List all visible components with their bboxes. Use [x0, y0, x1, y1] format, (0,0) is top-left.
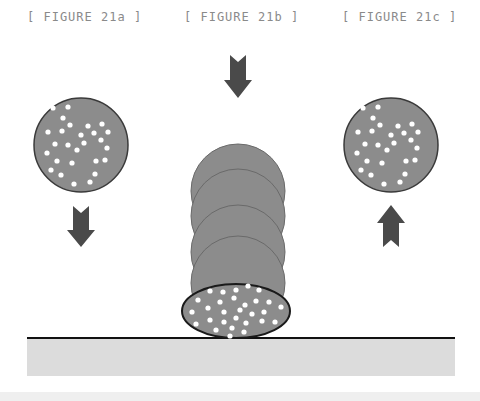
ball-dot [358, 167, 363, 172]
arrow-down-icon [67, 206, 95, 247]
ball-dot [415, 129, 420, 134]
ball-dot [402, 171, 407, 176]
ball-21a [34, 98, 128, 192]
ball-dot [227, 333, 232, 338]
ball-dot [379, 160, 384, 165]
bottom-strip [0, 392, 480, 401]
ball-dot [364, 158, 369, 163]
ball-dot [217, 299, 222, 304]
ball-dot [48, 167, 53, 172]
ball-dot [242, 302, 247, 307]
ball-dot [221, 309, 226, 314]
ball-dot [397, 179, 402, 184]
ball-dot [249, 311, 254, 316]
ball-dot [193, 321, 198, 326]
ball-dot [93, 158, 98, 163]
ball-dot [105, 129, 110, 134]
ball-dot [261, 309, 266, 314]
ball-21b-squashed [182, 283, 290, 338]
ball-dot [368, 172, 373, 177]
ball-dot [44, 150, 49, 155]
ball-dot [362, 141, 367, 146]
ball-dot [370, 115, 375, 120]
ball-dot [375, 104, 380, 109]
ball-dot [408, 137, 413, 142]
ball-dot [71, 181, 76, 186]
ball-dot [87, 179, 92, 184]
ball-dot [409, 121, 414, 126]
ball-dot [45, 129, 50, 134]
ball-dot [81, 140, 86, 145]
ball-dot [91, 130, 96, 135]
ball-dot [272, 319, 277, 324]
ball-dot [388, 132, 393, 137]
ball-dot [104, 145, 109, 150]
ball-dot [92, 171, 97, 176]
ball-dot [253, 298, 258, 303]
ball-dot [233, 287, 238, 292]
ball-dot [205, 305, 210, 310]
ball-dot [395, 123, 400, 128]
ball-dot [278, 304, 283, 309]
ball-dot [99, 121, 104, 126]
ball-dot [375, 142, 380, 147]
ball-dot [221, 319, 226, 324]
ball-dot [54, 158, 59, 163]
ball-dot [231, 295, 236, 300]
ball-dot [189, 309, 194, 314]
ball-dot [391, 140, 396, 145]
ball-dot [213, 327, 218, 332]
ball-dot [412, 157, 417, 162]
ball-dot [241, 329, 246, 334]
ball-dot [50, 105, 55, 110]
ball-dot [78, 132, 83, 137]
ball-dot [74, 147, 79, 152]
ball-dot [381, 181, 386, 186]
ball-dot [233, 315, 238, 320]
ball-dot [243, 320, 248, 325]
ball-dot [60, 115, 65, 120]
ball-dot [259, 318, 264, 323]
ball-dot [384, 147, 389, 152]
ball-dot [52, 141, 57, 146]
ball-dot [360, 105, 365, 110]
ball-dot [67, 122, 72, 127]
arrow-down-icon [224, 55, 252, 98]
ball-dot [69, 160, 74, 165]
ball-dot [403, 158, 408, 163]
ball-dot [102, 157, 107, 162]
ball-dot [59, 128, 64, 133]
ball-dot [85, 123, 90, 128]
ball-dot [256, 287, 261, 292]
bounce-diagram [0, 0, 480, 401]
ball-dot [98, 137, 103, 142]
ball-21c [344, 98, 438, 192]
ball-dot [414, 145, 419, 150]
ball-dot [58, 172, 63, 177]
arrow-up-icon [377, 205, 405, 247]
ball-dot [207, 317, 212, 322]
ball-dot [401, 130, 406, 135]
ball-dot [237, 307, 242, 312]
ball-dot [354, 150, 359, 155]
ground-surface [27, 338, 455, 376]
ball-dot [245, 283, 250, 288]
ball-dot [355, 129, 360, 134]
ball-dot [220, 289, 225, 294]
ball-dot [207, 288, 212, 293]
ball-dot [65, 142, 70, 147]
ball-dot [195, 297, 200, 302]
ball-dot [369, 128, 374, 133]
ball-dot [229, 325, 234, 330]
ball-dot [377, 122, 382, 127]
ball-dot [266, 299, 271, 304]
ball-dot [65, 104, 70, 109]
